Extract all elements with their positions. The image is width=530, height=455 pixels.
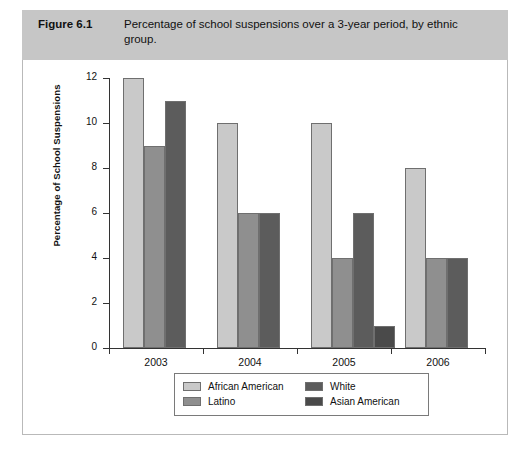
legend-label-white: White: [330, 381, 356, 392]
bar: [311, 123, 332, 348]
legend-label-latino: Latino: [208, 396, 235, 407]
legend-row: Latino Asian American: [183, 394, 420, 409]
x-axis-tick-mark: [297, 348, 298, 354]
legend-entry-asian-american: Asian American: [305, 396, 399, 407]
bar: [259, 213, 280, 348]
figure-page: Figure 6.1 Percentage of school suspensi…: [0, 0, 530, 455]
x-axis-tick-mark: [391, 348, 392, 354]
bar: [217, 123, 238, 348]
chart-panel: Percentage of School Suspensions 0246810…: [22, 60, 508, 435]
legend-swatch-latino: [183, 397, 201, 406]
y-axis-tick-mark: [103, 168, 110, 169]
bar: [165, 101, 186, 349]
bar: [405, 168, 426, 348]
legend-swatch-white: [305, 382, 323, 391]
y-axis-tick-mark: [103, 123, 110, 124]
legend-label-asian-american: Asian American: [330, 396, 399, 407]
legend-swatch-african-american: [183, 382, 201, 391]
y-axis-tick-label: 10: [23, 116, 97, 127]
y-axis-tick-mark: [103, 78, 110, 79]
y-axis-tick-label: 12: [23, 71, 97, 82]
y-axis-tick-label: 8: [23, 161, 97, 172]
x-axis-tick-label: 2005: [314, 356, 374, 368]
x-axis-tick-mark: [203, 348, 204, 354]
legend-label-african-american: African American: [208, 381, 284, 392]
x-axis-tick-label: 2003: [126, 356, 186, 368]
y-axis-tick-label: 6: [23, 206, 97, 217]
bar: [426, 258, 447, 348]
legend-entry-latino: Latino: [183, 396, 305, 407]
bar: [123, 78, 144, 348]
x-axis-tick-mark: [485, 348, 486, 354]
bar: [332, 258, 353, 348]
legend-swatch-asian-american: [305, 397, 323, 406]
y-axis-tick-label: 4: [23, 251, 97, 262]
bar: [374, 326, 395, 349]
legend-entry-white: White: [305, 381, 356, 392]
figure-caption-text: Percentage of school suspensions over a …: [124, 17, 474, 47]
x-axis-tick-mark: [109, 348, 110, 354]
figure-caption-band: Figure 6.1 Percentage of school suspensi…: [22, 10, 508, 60]
y-axis-tick-mark: [103, 303, 110, 304]
chart-legend: African American White Latino Asian Amer…: [174, 373, 429, 416]
bar: [238, 213, 259, 348]
x-axis-tick-label: 2006: [408, 356, 468, 368]
y-axis-tick-mark: [103, 258, 110, 259]
y-axis-tick-mark: [103, 213, 110, 214]
y-axis-tick-label: 0: [23, 341, 97, 352]
x-axis-tick-label: 2004: [220, 356, 280, 368]
bar: [144, 146, 165, 349]
bar: [447, 258, 468, 348]
legend-entry-african-american: African American: [183, 381, 305, 392]
figure-number: Figure 6.1: [38, 17, 124, 32]
bar: [353, 213, 374, 348]
legend-row: African American White: [183, 379, 420, 394]
y-axis-tick-label: 2: [23, 296, 97, 307]
